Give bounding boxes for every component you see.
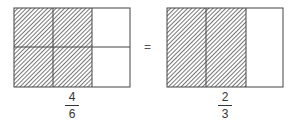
right-grid [167,8,283,87]
fraction-bar [218,105,232,106]
right-numerator: 2 [215,91,235,103]
right-fraction: 2 3 [215,91,235,120]
fraction-bar [65,105,79,106]
left-grid [14,8,130,87]
left-fraction: 4 6 [62,91,82,120]
left-numerator: 4 [62,91,82,103]
left-denominator: 6 [62,108,82,120]
right-denominator: 3 [215,108,235,120]
equals-sign: = [144,40,151,54]
fraction-diagram [0,0,299,124]
